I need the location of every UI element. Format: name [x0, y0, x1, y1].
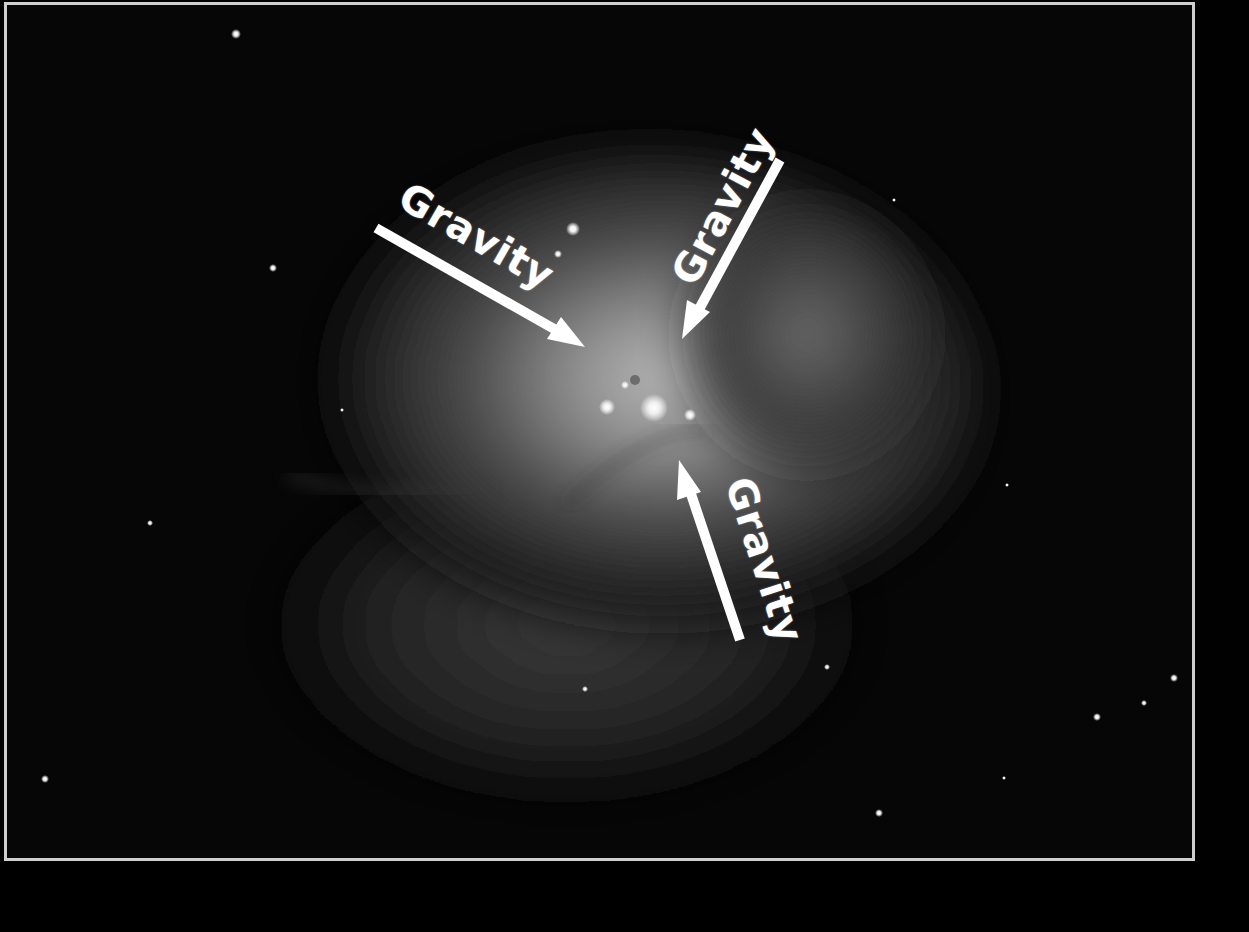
nebula-image	[7, 5, 1192, 858]
image-frame: Gravity Gravity Gravity	[4, 2, 1195, 861]
bottom-margin	[0, 862, 1249, 932]
figure-page: Gravity Gravity Gravity	[0, 0, 1249, 932]
